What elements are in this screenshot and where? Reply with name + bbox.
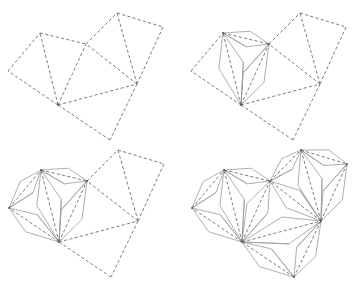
fold-kite-GB	[219, 33, 243, 105]
fold-crease	[241, 62, 243, 105]
dashed-edge-AB	[191, 33, 223, 71]
fold-kite-FH	[294, 221, 321, 277]
fold-kite-BC	[224, 168, 270, 184]
dashed-edge-FD	[118, 150, 138, 221]
dashed-edge-BC	[40, 33, 86, 44]
dashed-edge-EF	[137, 27, 163, 84]
dashed-edge-CD	[270, 150, 301, 181]
dashed-edge-FC	[269, 44, 320, 84]
fold-kite-GB	[37, 170, 61, 242]
panel-1-initial-triangulation	[8, 13, 163, 140]
fold-crease	[243, 44, 269, 73]
panel-4-all-triangles-folded	[191, 149, 348, 278]
vertex-A	[8, 207, 10, 209]
fold-kite-HG	[242, 242, 294, 277]
fold-kite-BC	[223, 31, 269, 47]
dashed-edge-HG	[241, 105, 293, 140]
fold-kite-BC	[41, 168, 87, 184]
vertex-C	[86, 180, 88, 182]
dashed-edge-FC	[270, 181, 321, 221]
vertex-B	[223, 169, 225, 171]
dashed-edge-CD	[87, 150, 118, 181]
dashed-edge-FD	[300, 13, 320, 84]
vertex-D	[300, 149, 302, 151]
dashed-edge-DE	[117, 13, 163, 27]
fold-kite-EF	[321, 164, 347, 221]
dashed-edge-FC	[87, 181, 138, 221]
vertex-B	[222, 32, 224, 34]
dashed-edge-AB	[8, 33, 40, 71]
fold-crease	[323, 164, 347, 191]
vertex-C	[269, 180, 271, 182]
dashed-edge-GC	[58, 44, 86, 105]
vertex-F	[320, 220, 322, 222]
dashed-edge-DE	[300, 13, 346, 27]
vertex-C	[268, 43, 270, 45]
dashed-edge-FH	[111, 221, 138, 277]
fold-kite-GB	[220, 170, 244, 242]
dashed-edge-DE	[118, 150, 164, 164]
dashed-edge-FH	[110, 84, 137, 140]
vertex-A	[191, 207, 193, 209]
fold-crease	[242, 213, 268, 242]
panel-3-two-triangles-folded	[8, 150, 164, 277]
dashed-edge-GF	[242, 221, 321, 242]
vertex-G	[240, 104, 242, 106]
dashed-edge-HG	[242, 242, 294, 277]
dashed-edge-FH	[293, 84, 320, 140]
dashed-edge-AB	[9, 170, 41, 208]
dashed-edge-HG	[59, 242, 111, 277]
dashed-edge-HG	[58, 105, 110, 140]
dashed-edge-AB	[192, 170, 224, 208]
dashed-edge-FC	[86, 44, 137, 84]
dashed-edge-FD	[301, 150, 321, 221]
dashed-edge-EF	[320, 27, 346, 84]
fold-crease	[41, 170, 64, 184]
dashed-edge-DE	[301, 150, 347, 164]
fold-crease	[61, 181, 87, 210]
vertex-G	[57, 104, 59, 106]
fold-kite-GF	[242, 217, 321, 244]
dashed-edge-GF	[241, 84, 320, 105]
panel-2-one-triangle-folded	[191, 13, 346, 140]
dashed-edge-EF	[138, 164, 164, 221]
vertex-E	[346, 163, 348, 165]
fold-crease	[223, 33, 246, 47]
dashed-edge-CD	[86, 13, 117, 44]
dashed-edge-CD	[269, 13, 300, 44]
fold-crease	[271, 249, 294, 277]
vertex-G	[241, 241, 243, 243]
dashed-edge-GF	[58, 84, 137, 105]
vertex-H	[293, 276, 295, 278]
dashed-edge-GF	[59, 221, 138, 242]
vertex-B	[40, 169, 42, 171]
dashed-edge-FD	[117, 13, 137, 84]
fold-crease	[224, 170, 247, 184]
vertex-G	[58, 241, 60, 243]
folding-diagram	[0, 0, 357, 284]
